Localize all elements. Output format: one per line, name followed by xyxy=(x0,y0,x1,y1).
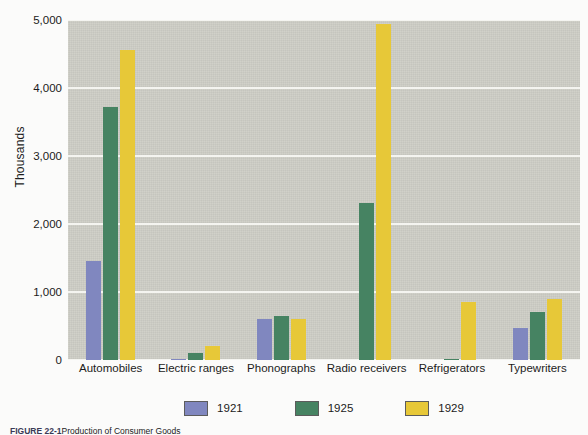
bar-group xyxy=(153,20,238,360)
x-axis-tick-label: Automobiles xyxy=(68,362,153,382)
legend-label: 1929 xyxy=(438,402,464,414)
x-axis-tick-labels: AutomobilesElectric rangesPhonographsRad… xyxy=(68,362,580,382)
legend-label: 1921 xyxy=(217,402,243,414)
plot-area xyxy=(68,20,580,360)
bar xyxy=(376,24,391,360)
x-axis-tick-label: Electric ranges xyxy=(153,362,238,382)
bar-groups xyxy=(68,20,580,360)
x-axis-tick-label: Phonographs xyxy=(239,362,324,382)
bar-group xyxy=(239,20,324,360)
y-axis-tick-label: 1,000 xyxy=(6,286,62,298)
figure-container: Department of Commerce Thousands 01,0002… xyxy=(0,0,588,435)
bar xyxy=(530,312,545,360)
y-axis-tick-label: 3,000 xyxy=(6,150,62,162)
bar xyxy=(257,319,272,360)
y-axis-tick-label: 5,000 xyxy=(6,14,62,26)
legend-swatch xyxy=(295,401,319,416)
bar xyxy=(547,299,562,360)
x-axis-tick-label: Typewriters xyxy=(495,362,580,382)
y-axis-tick-labels: 01,0002,0003,0004,0005,000 xyxy=(0,0,62,435)
bar xyxy=(120,50,135,360)
bar xyxy=(103,107,118,360)
bar-group xyxy=(409,20,494,360)
bar xyxy=(513,328,528,360)
legend-swatch xyxy=(184,401,208,416)
y-axis-tick-label: 2,000 xyxy=(6,218,62,230)
bar xyxy=(359,203,374,360)
y-axis-tick-label: 0 xyxy=(6,354,62,366)
bar xyxy=(188,353,203,360)
bar xyxy=(444,359,459,360)
bar-group xyxy=(495,20,580,360)
legend-swatch xyxy=(405,401,429,416)
bar xyxy=(291,319,306,360)
bar-group xyxy=(68,20,153,360)
figure-caption: FIGURE 22-1Production of Consumer Goods xyxy=(10,426,181,435)
bar xyxy=(171,359,186,360)
bar-group xyxy=(324,20,409,360)
legend-item: 1921 xyxy=(184,401,243,416)
legend-label: 1925 xyxy=(328,402,354,414)
x-axis-tick-label: Radio receivers xyxy=(324,362,409,382)
figure-number: FIGURE 22-1 xyxy=(10,426,62,435)
legend-item: 1925 xyxy=(295,401,354,416)
bar xyxy=(86,261,101,360)
y-axis-tick-label: 4,000 xyxy=(6,82,62,94)
bar xyxy=(274,316,289,360)
caption-text: Production of Consumer Goods xyxy=(62,426,181,435)
x-axis-tick-label: Refrigerators xyxy=(409,362,494,382)
bar xyxy=(205,346,220,360)
legend-item: 1929 xyxy=(405,401,464,416)
chart-legend: 192119251929 xyxy=(68,397,580,419)
bar xyxy=(461,302,476,360)
